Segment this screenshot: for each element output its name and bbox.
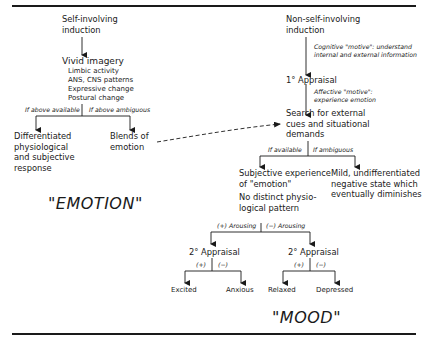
secondary-appraisal-left: 2° Appraisal xyxy=(189,247,240,258)
branch-label-if-available: If available xyxy=(268,146,302,154)
primary-appraisal: 1° Appraisal xyxy=(286,75,337,86)
positive-label-left: (+) xyxy=(196,261,206,269)
negative-arousing-label: (−) Arousing xyxy=(266,222,305,230)
secondary-appraisal-right: 2° Appraisal xyxy=(288,247,339,258)
branch-label-if-ambiguous: If ambiguous xyxy=(313,146,353,154)
negative-label-right: (−) xyxy=(316,261,326,269)
non-self-involving-induction: Non-self-involving induction xyxy=(286,14,360,35)
mood-category-label: "MOOD" xyxy=(272,308,341,327)
imagery-items: Limbic activity ANS, CNS patterns Expres… xyxy=(68,67,134,103)
differentiated-response: Differentiated physiological and subject… xyxy=(14,131,75,173)
search-external-cues: Search for external cues and situational… xyxy=(286,108,370,140)
negative-label-left: (−) xyxy=(218,261,228,269)
outcome-relaxed: Relaxed xyxy=(268,286,296,295)
outcome-anxious: Anxious xyxy=(226,286,254,295)
emotion-category-label: "EMOTION" xyxy=(48,194,143,213)
outcome-excited: Excited xyxy=(171,286,197,295)
vivid-imagery: Vivid imagery xyxy=(62,56,124,67)
mild-undifferentiated-state: Mild, undifferentiated negative state wh… xyxy=(331,168,422,200)
outcome-depressed: Depressed xyxy=(316,286,353,295)
subjective-experience: Subjective experience of "emotion" xyxy=(239,168,331,189)
blends-of-emotion: Blends of emotion xyxy=(110,131,149,152)
branch-label-above-available: If above available xyxy=(25,106,80,114)
branch-label-above-ambiguous: If above ambiguous xyxy=(89,106,150,114)
self-involving-induction: Self-involving induction xyxy=(62,14,118,35)
positive-arousing-label: (+) Arousing xyxy=(217,222,256,230)
affective-motive-label: Affective "motive": experience emotion xyxy=(314,88,376,104)
no-distinct-pattern: No distinct physio- logical pattern xyxy=(239,192,316,213)
cognitive-motive-label: Cognitive "motive": understand internal … xyxy=(314,43,417,59)
positive-label-right: (+) xyxy=(294,261,304,269)
